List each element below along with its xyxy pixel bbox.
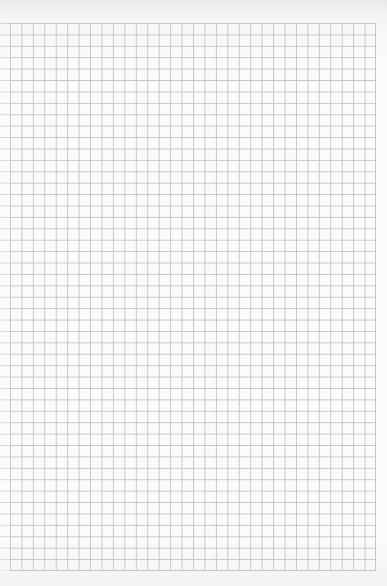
graph-paper-sheet bbox=[0, 0, 387, 586]
grid bbox=[10, 23, 376, 571]
grid-margin-lines bbox=[0, 23, 10, 571]
